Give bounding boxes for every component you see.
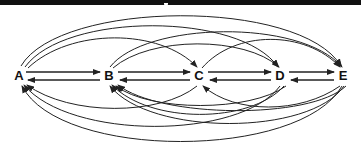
edge-a-e [21,16,341,66]
adjacent-edges [26,72,334,80]
node-c: C [192,69,206,83]
graph-diagram [0,0,361,154]
node-d: D [273,69,287,83]
edge-e-b-2 [118,85,346,111]
edge-c-e [202,39,340,68]
node-a: A [12,69,26,83]
node-b: B [102,69,116,83]
node-e: E [336,69,350,83]
lower-arcs [22,85,346,142]
upper-arcs [21,16,342,68]
